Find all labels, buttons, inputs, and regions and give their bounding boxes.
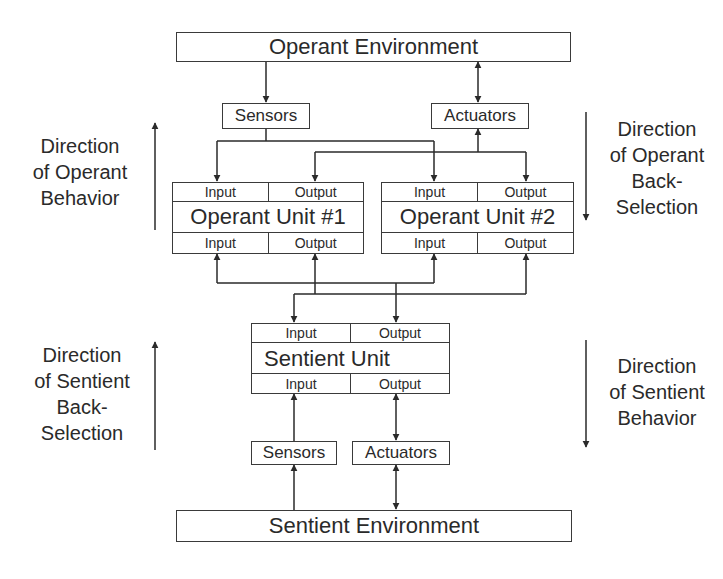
operant-unit-1-bottom-ports: Input Output [173, 232, 363, 253]
sentient-unit-top-input: Input [252, 324, 350, 342]
operant-unit-2-bottom-output: Output [477, 233, 573, 253]
sentient-unit-bottom-output: Output [350, 374, 449, 393]
sentient-unit-bottom-ports: Input Output [252, 373, 449, 393]
operant-unit-1-top-output: Output [268, 183, 364, 201]
operant-unit-1-top-ports: Input Output [173, 183, 363, 202]
direction-of-sentient-behavior-label: Direction of Sentient Behavior [594, 353, 720, 431]
operant-unit-1-bottom-output: Output [268, 233, 364, 253]
sentient-unit-top-output: Output [350, 324, 449, 342]
direction-of-operant-behavior-label: Direction of Operant Behavior [20, 133, 140, 211]
sentient-actuators-label: Actuators [365, 443, 437, 463]
sentient-environment-label: Sentient Environment [269, 513, 479, 539]
connection-wires [0, 0, 723, 579]
sentient-unit-bottom-input: Input [252, 374, 350, 393]
operant-unit-1: Input Output Operant Unit #1 Input Outpu… [172, 182, 364, 254]
operant-unit-2-top-output: Output [477, 183, 573, 201]
sentient-unit-top-ports: Input Output [252, 324, 449, 343]
sentient-sensors-label: Sensors [263, 443, 325, 463]
direction-of-sentient-back-selection-label: Direction of Sentient Back- Selection [20, 342, 144, 446]
operant-unit-2-top-ports: Input Output [382, 183, 573, 202]
sentient-unit-title: Sentient Unit [252, 342, 449, 375]
operant-unit-2-bottom-input: Input [382, 233, 477, 253]
operant-environment-box: Operant Environment [176, 32, 571, 62]
operant-unit-2-title: Operant Unit #2 [382, 201, 573, 233]
sentient-environment-box: Sentient Environment [176, 510, 572, 542]
direction-of-operant-back-selection-label: Direction of Operant Back- Selection [594, 116, 720, 220]
operant-sensors-box: Sensors [222, 103, 310, 129]
sentient-actuators-box: Actuators [352, 441, 450, 465]
operant-environment-label: Operant Environment [269, 34, 478, 60]
sentient-unit: Input Output Sentient Unit Input Output [251, 323, 450, 394]
operant-unit-1-top-input: Input [173, 183, 268, 201]
operant-unit-2-bottom-ports: Input Output [382, 232, 573, 253]
operant-actuators-box: Actuators [431, 103, 529, 129]
operant-unit-1-title: Operant Unit #1 [173, 201, 363, 233]
operant-unit-1-bottom-input: Input [173, 233, 268, 253]
operant-unit-2: Input Output Operant Unit #2 Input Outpu… [381, 182, 574, 254]
operant-unit-2-top-input: Input [382, 183, 477, 201]
operant-sensors-label: Sensors [235, 106, 297, 126]
sentient-sensors-box: Sensors [251, 441, 337, 465]
operant-actuators-label: Actuators [444, 106, 516, 126]
